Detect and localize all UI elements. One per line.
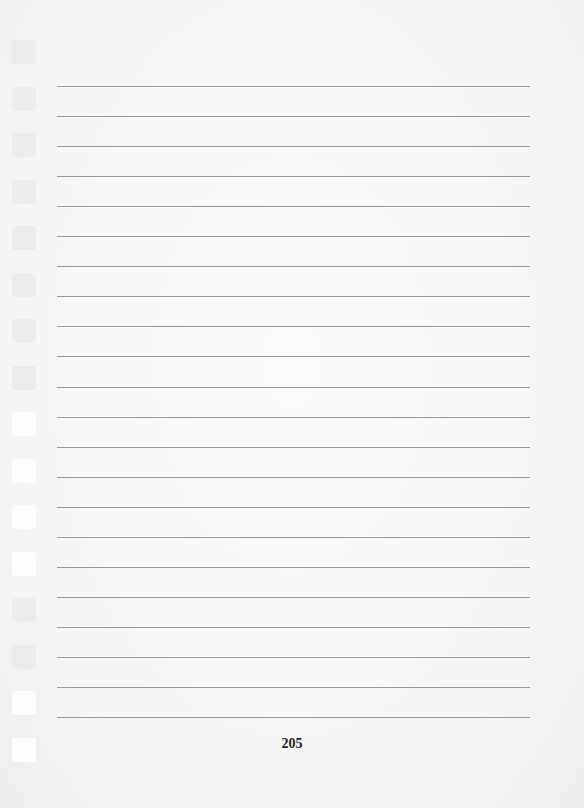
ruled-line	[57, 447, 530, 448]
ruled-line	[57, 717, 530, 718]
binder-hole	[12, 366, 36, 390]
notebook-page: 205	[0, 0, 584, 808]
ruled-line	[57, 687, 530, 688]
binder-hole	[12, 226, 36, 250]
binder-hole	[12, 598, 36, 622]
ruled-line	[57, 507, 530, 508]
binder-hole	[12, 645, 36, 669]
ruled-line	[57, 86, 530, 87]
binder-hole	[12, 412, 36, 436]
ruled-line	[57, 356, 530, 357]
binder-hole	[12, 40, 36, 64]
ruled-line	[57, 266, 530, 267]
ruled-line	[57, 146, 530, 147]
ruled-line	[57, 236, 530, 237]
ruled-line	[57, 326, 530, 327]
ruled-line	[57, 627, 530, 628]
ruled-line	[57, 206, 530, 207]
binder-hole	[12, 87, 36, 111]
ruled-line	[57, 597, 530, 598]
binder-holes	[12, 0, 38, 808]
ruled-line	[57, 176, 530, 177]
binder-hole	[12, 319, 36, 343]
binder-hole	[12, 505, 36, 529]
binder-hole	[12, 133, 36, 157]
page-number: 205	[0, 736, 584, 752]
binder-hole	[12, 273, 36, 297]
ruled-line	[57, 116, 530, 117]
binder-hole	[12, 180, 36, 204]
binder-hole	[12, 691, 36, 715]
ruled-line	[57, 567, 530, 568]
ruled-line	[57, 657, 530, 658]
ruled-line	[57, 477, 530, 478]
ruled-line	[57, 417, 530, 418]
binder-hole	[12, 459, 36, 483]
ruled-line	[57, 537, 530, 538]
ruled-line	[57, 296, 530, 297]
ruled-lines	[57, 0, 530, 808]
ruled-line	[57, 387, 530, 388]
binder-hole	[12, 552, 36, 576]
